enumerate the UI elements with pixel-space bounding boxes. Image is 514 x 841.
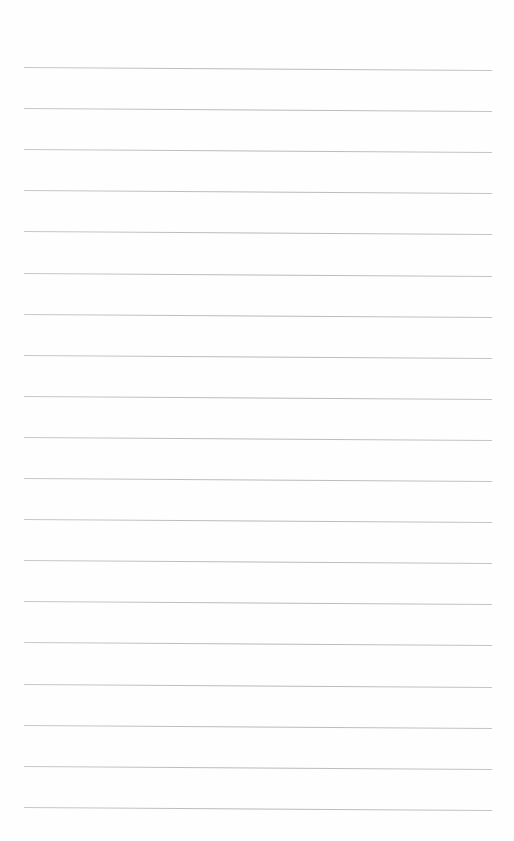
ruled-line <box>24 396 492 400</box>
ruled-line <box>24 642 492 646</box>
ruled-line <box>24 231 492 235</box>
ruled-line <box>24 766 492 770</box>
ruled-line <box>24 560 492 564</box>
ruled-line <box>24 684 492 688</box>
ruled-line <box>24 437 492 441</box>
ruled-line <box>24 519 492 523</box>
ruled-line <box>24 725 492 729</box>
ruled-line <box>24 273 492 277</box>
ruled-line <box>24 314 492 318</box>
ruled-line <box>24 355 492 359</box>
ruled-line <box>24 149 492 153</box>
ruled-line <box>24 190 492 194</box>
ruled-line <box>24 108 492 112</box>
ruled-line <box>24 67 492 71</box>
ruled-page <box>0 0 514 841</box>
ruled-line <box>24 601 492 605</box>
ruled-line <box>24 807 492 811</box>
ruled-line <box>24 478 492 482</box>
